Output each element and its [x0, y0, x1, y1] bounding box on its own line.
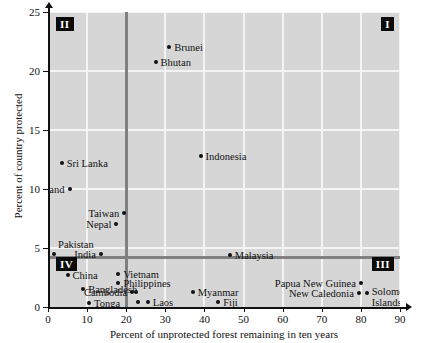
- x-tick-label: 60: [277, 313, 288, 325]
- x-axis-arrow-icon: [406, 303, 412, 311]
- data-point: [134, 290, 138, 294]
- data-point: [146, 300, 150, 304]
- data-point-label: Thailand: [48, 184, 65, 195]
- data-point: [52, 252, 56, 256]
- x-tick-label: 40: [199, 313, 210, 325]
- data-point: [228, 253, 232, 257]
- x-tick-label: 10: [82, 313, 93, 325]
- quadrant-label-3: III: [372, 257, 394, 271]
- data-point: [216, 300, 220, 304]
- data-point: [191, 290, 195, 294]
- gridline-vertical: [321, 12, 323, 307]
- gridline-horizontal: [48, 70, 400, 72]
- data-point: [66, 273, 70, 277]
- y-tick-label: 20: [14, 65, 40, 77]
- x-tick: [204, 307, 205, 312]
- data-point-label: Brunei: [174, 42, 203, 53]
- y-tick: [43, 130, 48, 131]
- x-tick: [165, 307, 166, 312]
- data-point: [154, 60, 158, 64]
- vertical-reference-line: [125, 12, 128, 307]
- x-tick-label: 50: [238, 313, 249, 325]
- x-tick-label: 0: [45, 313, 51, 325]
- x-tick: [244, 307, 245, 312]
- quadrant-label-4: IV: [56, 257, 77, 271]
- x-tick-label: 90: [395, 313, 406, 325]
- data-point: [122, 211, 126, 215]
- data-point-label: New Caledonia: [289, 287, 354, 298]
- y-tick: [43, 12, 48, 13]
- data-point: [357, 291, 361, 295]
- data-point: [68, 187, 72, 191]
- data-point-label: Taiwan: [89, 207, 120, 218]
- data-point-label: Malaysia: [235, 250, 274, 261]
- gridline-horizontal: [48, 129, 400, 131]
- quadrant-label-1: I: [381, 17, 394, 31]
- y-tick: [43, 307, 48, 308]
- data-point-label: Fiji: [223, 297, 238, 307]
- horizontal-reference-line: [48, 256, 400, 259]
- x-tick: [322, 307, 323, 312]
- x-tick: [87, 307, 88, 312]
- data-point: [99, 252, 103, 256]
- data-point: [167, 45, 171, 49]
- data-point-label: Sri Lanka: [67, 158, 108, 169]
- data-point: [359, 281, 363, 285]
- y-tick-label: 10: [14, 183, 40, 195]
- gridline-vertical: [399, 12, 400, 307]
- gridline-vertical: [282, 12, 284, 307]
- x-tick-label: 70: [316, 313, 327, 325]
- y-tick: [43, 189, 48, 190]
- data-point: [199, 154, 203, 158]
- scatter-chart: BruneiBhutanIndonesiaSri LankaThailandTa…: [0, 0, 424, 343]
- data-point: [60, 161, 64, 165]
- data-point-label: China: [73, 270, 98, 281]
- x-axis-line: [48, 307, 408, 309]
- gridline-horizontal: [48, 247, 400, 249]
- data-point-label: Cambodia: [84, 286, 127, 297]
- data-point-label: Indonesia: [206, 150, 247, 161]
- plot-area: BruneiBhutanIndonesiaSri LankaThailandTa…: [48, 12, 400, 307]
- data-point: [136, 300, 140, 304]
- data-point: [365, 291, 369, 295]
- y-tick-label: 5: [14, 242, 40, 254]
- data-point: [114, 222, 118, 226]
- x-tick: [48, 307, 49, 312]
- data-point-label: Myanmar: [198, 286, 239, 297]
- gridline-horizontal: [48, 12, 400, 13]
- y-tick: [43, 248, 48, 249]
- y-tick-label: 25: [14, 6, 40, 18]
- y-axis-arrow-icon: [45, 2, 53, 8]
- data-point-label: India: [74, 248, 96, 259]
- gridline-horizontal: [48, 188, 400, 190]
- gridline-vertical: [360, 12, 362, 307]
- data-point-label: Nepal: [86, 219, 111, 230]
- y-tick-label: 0: [14, 301, 40, 313]
- data-point-label: SolomonIslands: [372, 286, 400, 307]
- y-axis-line: [48, 6, 50, 307]
- data-point: [116, 272, 120, 276]
- x-tick: [126, 307, 127, 312]
- data-point: [87, 301, 91, 305]
- x-tick: [400, 307, 401, 312]
- x-axis-title: Percent of unprotected forest remaining …: [48, 328, 400, 340]
- data-point-label: Bhutan: [161, 56, 191, 67]
- x-tick: [361, 307, 362, 312]
- x-tick-label: 20: [121, 313, 132, 325]
- quadrant-label-2: II: [56, 17, 74, 31]
- y-axis-title: Percent of country protected: [12, 66, 24, 246]
- data-point-label: Laos: [153, 297, 173, 307]
- y-tick: [43, 71, 48, 72]
- data-point-label: Tonga: [94, 298, 120, 307]
- y-tick-label: 15: [14, 124, 40, 136]
- x-tick: [283, 307, 284, 312]
- x-tick-label: 80: [355, 313, 366, 325]
- x-tick-label: 30: [160, 313, 171, 325]
